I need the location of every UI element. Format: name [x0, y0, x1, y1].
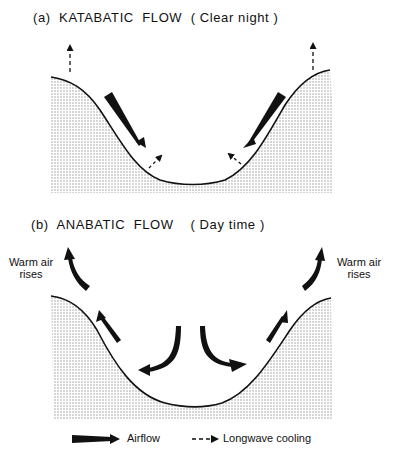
- panel-a-title: (a) KATABATIC FLOW ( Clear night ): [33, 10, 278, 25]
- central-divergence-arrows: [138, 326, 247, 376]
- legend-airflow-symbol: [72, 434, 120, 444]
- warm-air-right-line2: rises: [329, 268, 389, 280]
- warm-air-left-line2: rises: [6, 268, 56, 280]
- anabatic-upslope-arrows: [96, 310, 288, 343]
- legend-longwave-label: Longwave cooling: [223, 432, 311, 444]
- panel-a-terrain: [51, 70, 332, 193]
- warm-air-left-line1: Warm air: [6, 256, 56, 268]
- warm-air-rises-arrows: [64, 247, 325, 291]
- legend-airflow-label: Airflow: [127, 432, 160, 444]
- warm-air-label-right: Warm air rises: [329, 256, 389, 280]
- warm-air-label-left: Warm air rises: [6, 256, 56, 280]
- warm-air-right-line1: Warm air: [329, 256, 389, 268]
- katabatic-airflow-arrows: [104, 92, 286, 148]
- panel-b-terrain: [51, 296, 333, 420]
- legend-longwave-symbol: [192, 435, 219, 443]
- panel-b-title: (b) ANABATIC FLOW ( Day time ): [31, 217, 265, 232]
